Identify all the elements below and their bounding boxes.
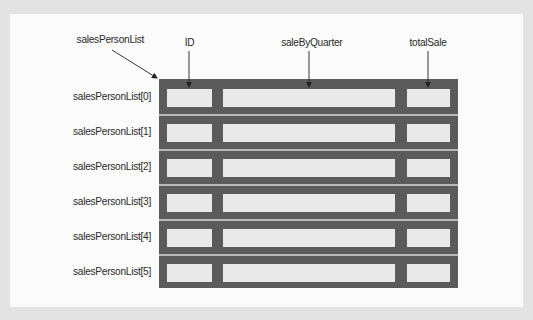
row-label-4: salesPersonList[4] (37, 230, 151, 242)
row-label-3: salesPersonList[3] (37, 195, 151, 207)
sale-by-quarter-cell (223, 264, 395, 282)
array-row-3 (159, 184, 458, 219)
row-label-0: salesPersonList[0] (37, 90, 151, 102)
total-sale-cell (407, 264, 450, 282)
sale-by-quarter-field-label: saleByQuarter (281, 36, 342, 48)
row-label-5: salesPersonList[5] (37, 265, 151, 277)
id-cell (167, 89, 212, 107)
sale-by-quarter-cell (223, 89, 395, 107)
array-row-4 (159, 219, 458, 254)
array-name-label: salesPersonList (77, 33, 144, 45)
sale-by-quarter-cell (223, 124, 395, 142)
row-label-2: salesPersonList[2] (37, 160, 151, 172)
array-row-1 (159, 114, 458, 149)
total-sale-cell (407, 229, 450, 247)
total-sale-cell (407, 124, 450, 142)
sale-by-quarter-cell (223, 159, 395, 177)
array-row-5 (159, 254, 458, 289)
sale-by-quarter-cell (223, 229, 395, 247)
id-cell (167, 159, 212, 177)
array-row-2 (159, 149, 458, 184)
id-cell (167, 194, 212, 212)
total-sale-cell (407, 194, 450, 212)
total-sale-cell (407, 159, 450, 177)
sales-person-array (159, 79, 458, 288)
id-field-label: ID (185, 36, 195, 48)
row-label-1: salesPersonList[1] (37, 125, 151, 137)
sale-by-quarter-cell (223, 194, 395, 212)
id-cell (167, 124, 212, 142)
total-sale-cell (407, 89, 450, 107)
id-cell (167, 229, 212, 247)
id-cell (167, 264, 212, 282)
array-row-0 (159, 79, 458, 114)
total-sale-field-label: totalSale (410, 36, 447, 48)
